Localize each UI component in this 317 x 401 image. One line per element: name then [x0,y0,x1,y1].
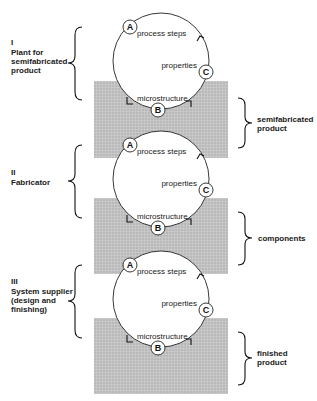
svg-text:A: A [127,140,134,150]
microstructure-label: microstructure [137,94,188,103]
properties-label: properties [161,299,197,308]
output-label-line: finished [257,349,288,358]
output-label-line: product [257,358,287,367]
svg-text:C: C [203,185,210,195]
microstructure-label: microstructure [137,212,188,221]
marker-b: B [151,341,165,355]
process-steps-label: process steps [137,147,186,156]
stage-label-line: (design and [11,296,56,305]
left-brace-icon [68,145,82,218]
process-steps-label: process steps [137,29,186,38]
svg-text:A: A [127,22,134,32]
process-steps-label: process steps [137,267,186,276]
marker-b: B [151,221,165,235]
output-3: finished product [238,332,288,385]
svg-text:B: B [155,105,162,115]
material-flow-diagram: process steps properties microstructure … [0,0,317,401]
stage-1: I Plant for semifabricated product [11,27,82,100]
svg-text:C: C [203,67,210,77]
svg-text:B: B [155,343,162,353]
output-label-line: product [257,124,287,133]
marker-a: A [123,258,137,272]
stage-label-line: Plant for [11,48,43,57]
marker-c: C [199,65,213,79]
right-brace-icon [238,332,252,385]
right-brace-icon [238,98,252,148]
svg-text:A: A [127,260,134,270]
left-brace-icon [68,27,82,100]
marker-c: C [199,183,213,197]
marker-c: C [199,303,213,317]
stage-label-line: Fabricator [11,178,50,187]
stage-numeral: II [11,168,15,177]
marker-a: A [123,138,137,152]
stage-label-line: System supplier [11,287,73,296]
stage-2: II Fabricator [11,145,82,218]
marker-a: A [123,20,137,34]
output-2: components [238,212,306,265]
stage-label-line: semifabricated [11,57,68,66]
output-label-line: components [258,234,306,243]
left-brace-icon [68,265,82,338]
output-label-line: semifabricated [257,115,314,124]
marker-b: B [151,103,165,117]
output-1: semifabricated product [238,98,314,148]
svg-text:C: C [203,305,210,315]
stage-numeral: III [11,277,18,286]
right-brace-icon [238,212,252,265]
properties-label: properties [161,61,197,70]
stage-3: III System supplier (design and finishin… [11,265,82,338]
stage-label-line: finishing) [11,305,47,314]
svg-text:B: B [155,223,162,233]
properties-label: properties [161,179,197,188]
stage-numeral: I [11,38,13,47]
microstructure-label: microstructure [137,332,188,341]
stage-label-line: product [11,66,41,75]
